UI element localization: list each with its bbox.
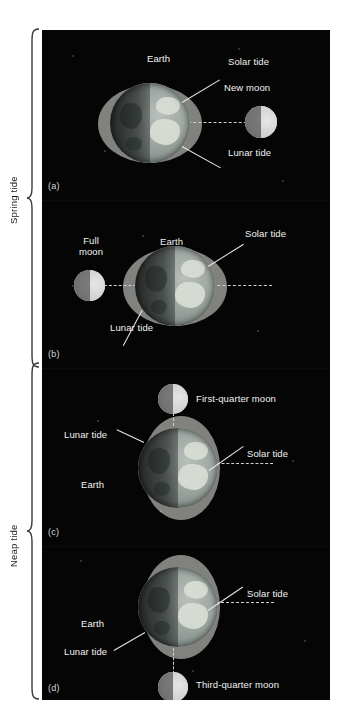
moon-third-quarter <box>158 672 188 700</box>
moon-shadow <box>158 672 173 700</box>
label-earth-b: Earth <box>160 236 183 247</box>
label-solar-tide-a: Solar tide <box>228 56 269 67</box>
panel-c: First-quarter moon Lunar tide Solar tide… <box>42 368 330 547</box>
panel-letter-a: (a) <box>48 181 60 191</box>
earth-globe-a <box>110 83 190 163</box>
label-lunar-tide-c: Lunar tide <box>64 429 107 440</box>
label-full-moon-line2: moon <box>79 246 103 257</box>
earth-rim <box>110 83 190 163</box>
group-label-neap-tide: Neap tide <box>8 500 19 592</box>
label-earth-d: Earth <box>81 618 104 629</box>
panel-letter-b: (b) <box>48 349 60 359</box>
moon-shadow <box>245 106 261 138</box>
label-solar-tide-c: Solar tide <box>247 448 288 459</box>
earth-globe-d <box>138 567 218 647</box>
panel-d: Solar tide Earth Lunar tide Third-quarte… <box>42 546 330 700</box>
panel-letter-c: (c) <box>48 527 59 537</box>
label-earth-a: Earth <box>147 53 170 64</box>
moon-new <box>245 106 277 138</box>
earth-a <box>102 75 198 171</box>
moon-shadow <box>74 270 90 301</box>
label-full-moon-b: Full moon <box>63 235 119 257</box>
panel-letter-d: (d) <box>48 683 60 693</box>
label-third-quarter-moon-d: Third-quarter moon <box>196 679 279 690</box>
group-label-spring-tide: Spring tide <box>8 150 19 250</box>
label-earth-c: Earth <box>81 479 104 490</box>
panel-a: Earth Solar tide New moon Lunar tide (a) <box>42 30 330 201</box>
brace-spring-tide <box>26 28 40 368</box>
earth-b <box>127 238 223 334</box>
label-lunar-tide-a: Lunar tide <box>228 147 271 158</box>
earth-rim <box>135 246 215 326</box>
moon-full <box>74 270 105 301</box>
label-first-quarter-moon-c: First-quarter moon <box>196 393 276 404</box>
label-full-moon-line1: Full <box>83 235 99 246</box>
label-solar-tide-d: Solar tide <box>247 588 288 599</box>
earth-globe-c <box>138 428 218 508</box>
label-lunar-tide-d: Lunar tide <box>64 646 107 657</box>
panel-b: Full moon Earth Solar tide Lunar tide (b… <box>42 200 330 369</box>
figure-panel-stack: Earth Solar tide New moon Lunar tide (a) <box>42 30 330 700</box>
moon-first-quarter <box>158 384 188 414</box>
label-solar-tide-b: Solar tide <box>245 228 286 239</box>
label-lunar-tide-b: Lunar tide <box>110 322 153 333</box>
moon-shadow <box>158 384 173 414</box>
earth-globe-b <box>135 246 215 326</box>
label-new-moon-a: New moon <box>224 82 270 93</box>
brace-neap-tide <box>26 362 40 700</box>
earth-rim <box>138 428 218 508</box>
earth-rim <box>138 567 218 647</box>
